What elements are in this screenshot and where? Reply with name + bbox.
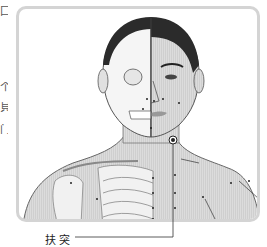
cropped-left-char-4: 门 (0, 124, 8, 135)
cropped-left-char-3: 貝 (0, 102, 8, 113)
anatomy-illustration (19, 9, 260, 222)
cropped-left-char-2: 个 (0, 82, 8, 93)
cropped-left-char-1: 囗 (0, 6, 8, 17)
illustration-frame (16, 6, 260, 222)
point-caption: 扶突 (45, 231, 73, 247)
